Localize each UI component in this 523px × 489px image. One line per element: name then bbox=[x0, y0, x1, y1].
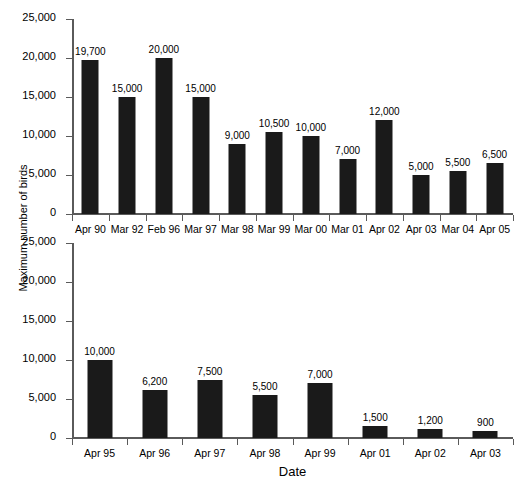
bar-group[interactable]: 9,000Mar 98 bbox=[219, 19, 256, 214]
bar[interactable] bbox=[339, 159, 356, 214]
bar[interactable] bbox=[473, 431, 498, 438]
bar[interactable] bbox=[302, 136, 319, 214]
bar-group[interactable]: 10,000Apr 95 bbox=[72, 243, 127, 438]
y-tick-label: 15,000 bbox=[0, 313, 56, 325]
bar-group[interactable]: 10,500Mar 99 bbox=[256, 19, 293, 214]
bar[interactable] bbox=[192, 97, 209, 214]
bar-group[interactable]: 15,000Mar 97 bbox=[182, 19, 219, 214]
bar[interactable] bbox=[376, 120, 393, 214]
bar-value-label: 7,000 bbox=[335, 145, 360, 156]
y-tick-label: 10,000 bbox=[0, 128, 56, 140]
x-tick bbox=[348, 439, 349, 445]
bar[interactable] bbox=[308, 383, 333, 438]
x-category-label: Apr 96 bbox=[139, 447, 170, 459]
x-tick bbox=[182, 215, 183, 221]
x-category-label: Apr 90 bbox=[75, 223, 106, 235]
bar-value-label: 5,500 bbox=[445, 157, 470, 168]
y-tick-label: 5,000 bbox=[0, 391, 56, 403]
x-tick bbox=[440, 215, 441, 221]
bar[interactable] bbox=[155, 58, 172, 214]
x-axis-title: Date bbox=[72, 464, 513, 479]
bar-value-label: 6,500 bbox=[482, 149, 507, 160]
bar[interactable] bbox=[363, 426, 388, 438]
y-tick-label: 0 bbox=[0, 430, 56, 442]
y-tick-label: 20,000 bbox=[0, 274, 56, 286]
x-tick bbox=[513, 439, 514, 445]
x-tick bbox=[458, 439, 459, 445]
x-category-label: Mar 98 bbox=[221, 223, 254, 235]
bar-value-label: 7,500 bbox=[197, 366, 222, 377]
x-tick bbox=[237, 439, 238, 445]
x-tick bbox=[476, 215, 477, 221]
bar[interactable] bbox=[229, 144, 246, 214]
x-category-label: Apr 98 bbox=[249, 447, 280, 459]
x-tick bbox=[256, 215, 257, 221]
x-category-label: Mar 04 bbox=[442, 223, 475, 235]
y-tick-label: 20,000 bbox=[0, 50, 56, 62]
x-category-label: Mar 00 bbox=[295, 223, 328, 235]
x-tick bbox=[72, 215, 73, 221]
bar-group[interactable]: 900Apr 03 bbox=[458, 243, 513, 438]
bar-group[interactable]: 12,000Apr 02 bbox=[366, 19, 403, 214]
bar-value-label: 19,700 bbox=[75, 46, 106, 57]
bar-group[interactable]: 1,500Apr 01 bbox=[348, 243, 403, 438]
x-category-label: Apr 02 bbox=[369, 223, 400, 235]
x-tick bbox=[146, 215, 147, 221]
x-category-label: Apr 95 bbox=[84, 447, 115, 459]
bar-group[interactable]: 6,500Apr 05 bbox=[476, 19, 513, 214]
x-tick bbox=[366, 215, 367, 221]
bar-value-label: 12,000 bbox=[369, 106, 400, 117]
x-tick bbox=[109, 215, 110, 221]
bar-series-bottom: 10,000Apr 956,200Apr 967,500Apr 975,500A… bbox=[72, 243, 513, 438]
bar-value-label: 1,500 bbox=[363, 412, 388, 423]
x-tick bbox=[403, 439, 404, 445]
plot-area-bottom: 05,00010,00015,00020,00025,000 10,000Apr… bbox=[72, 243, 513, 438]
bar[interactable] bbox=[252, 395, 277, 438]
x-tick bbox=[219, 215, 220, 221]
bar-group[interactable]: 19,700Apr 90 bbox=[72, 19, 109, 214]
bar-group[interactable]: 6,200Apr 96 bbox=[127, 243, 182, 438]
x-tick bbox=[513, 215, 514, 221]
bar-group[interactable]: 7,500Apr 97 bbox=[182, 243, 237, 438]
y-tick-label: 0 bbox=[0, 206, 56, 218]
x-tick bbox=[72, 439, 73, 445]
bar-group[interactable]: 7,000Apr 99 bbox=[293, 243, 348, 438]
x-category-label: Feb 96 bbox=[148, 223, 181, 235]
bar-group[interactable]: 7,000Mar 01 bbox=[329, 19, 366, 214]
x-category-label: Mar 01 bbox=[331, 223, 364, 235]
bar[interactable] bbox=[486, 163, 503, 214]
x-tick bbox=[293, 215, 294, 221]
bar[interactable] bbox=[266, 132, 283, 214]
x-category-label: Apr 97 bbox=[194, 447, 225, 459]
bar-value-label: 10,500 bbox=[259, 118, 290, 129]
bar[interactable] bbox=[87, 360, 112, 438]
x-tick bbox=[293, 439, 294, 445]
bar-value-label: 5,500 bbox=[252, 381, 277, 392]
bar-group[interactable]: 20,000Feb 96 bbox=[146, 19, 183, 214]
bar[interactable] bbox=[197, 380, 222, 439]
chart-panel-top: 05,00010,00015,00020,00025,000 19,700Apr… bbox=[0, 0, 523, 243]
bar[interactable] bbox=[119, 97, 136, 214]
bar[interactable] bbox=[418, 429, 443, 438]
bar-value-label: 7,000 bbox=[308, 369, 333, 380]
y-tick-label: 5,000 bbox=[0, 167, 56, 179]
bar-value-label: 900 bbox=[477, 417, 494, 428]
x-category-label: Apr 99 bbox=[305, 447, 336, 459]
bar-value-label: 15,000 bbox=[112, 83, 143, 94]
y-tick-label: 25,000 bbox=[0, 11, 56, 23]
bar-chart-figure: Maximum number of birds 05,00010,00015,0… bbox=[0, 0, 523, 489]
bar-group[interactable]: 5,000Apr 03 bbox=[403, 19, 440, 214]
bar-group[interactable]: 15,000Mar 92 bbox=[109, 19, 146, 214]
bar-value-label: 5,000 bbox=[409, 161, 434, 172]
bar-group[interactable]: 1,200Apr 02 bbox=[403, 243, 458, 438]
bar[interactable] bbox=[82, 60, 99, 214]
x-category-label: Apr 05 bbox=[479, 223, 510, 235]
y-tick-label: 15,000 bbox=[0, 89, 56, 101]
bar-group[interactable]: 5,500Mar 04 bbox=[440, 19, 477, 214]
bar-group[interactable]: 10,000Mar 00 bbox=[293, 19, 330, 214]
bar-group[interactable]: 5,500Apr 98 bbox=[237, 243, 292, 438]
bar[interactable] bbox=[449, 171, 466, 214]
bar-value-label: 10,000 bbox=[84, 346, 115, 357]
bar[interactable] bbox=[413, 175, 430, 214]
bar[interactable] bbox=[142, 390, 167, 438]
